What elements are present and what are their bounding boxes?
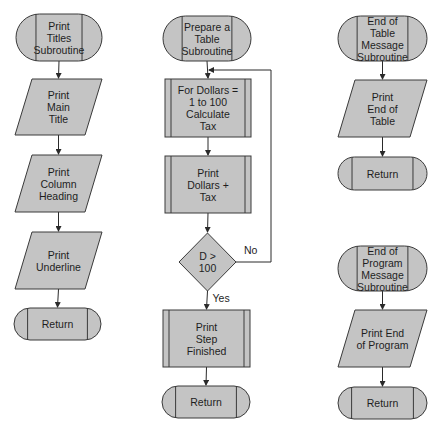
- node-label: D > 100: [179, 233, 236, 291]
- node-label: Return: [162, 386, 250, 418]
- flowchart-svg: [0, 0, 446, 432]
- node-label: Print Column Heading: [15, 155, 102, 212]
- node-label: Print End of Table: [338, 80, 427, 137]
- flow-edge: [207, 291, 208, 309]
- node-label: Print End of Program: [338, 310, 427, 367]
- flow-edge: [207, 61, 208, 78]
- flow-edge: [206, 367, 207, 385]
- node-label: Return: [338, 157, 427, 190]
- node-label: Print Dollars + Tax: [165, 156, 251, 213]
- flow-edge: [59, 61, 60, 78]
- node-label: Return: [14, 308, 101, 340]
- node-label: End of Program Message Subroutine: [338, 246, 427, 291]
- flow-edge: [58, 289, 59, 307]
- flowchart-canvas: Print Titles SubroutinePrint Main TitleP…: [0, 0, 446, 432]
- node-label: Return: [338, 387, 427, 419]
- flow-edge: [208, 213, 209, 232]
- node-label: Prepare a Table Subroutine: [163, 16, 251, 61]
- edge-label-no: No: [244, 244, 257, 256]
- edge-label-yes: Yes: [213, 292, 230, 304]
- node-label: Print Titles Subroutine: [16, 14, 102, 61]
- node-label: Print Underline: [15, 232, 102, 289]
- node-label: Print Step Finished: [163, 310, 250, 367]
- node-label: End of Table Message Subroutine: [338, 16, 427, 61]
- node-label: For Dollars = 1 to 100 Calculate Tax: [165, 79, 251, 137]
- node-label: Print Main Title: [15, 79, 102, 135]
